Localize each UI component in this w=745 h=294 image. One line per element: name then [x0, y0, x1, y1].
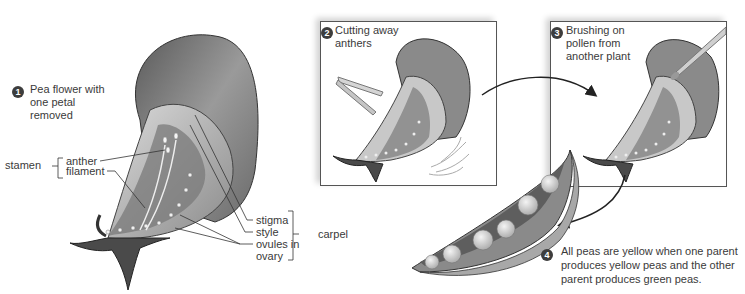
step4-caption-line3: parent produces green peas.: [561, 272, 738, 286]
step4-badge: 4: [541, 249, 553, 261]
step4-caption-line1: All peas are yellow when one parent: [561, 244, 738, 258]
step4-caption-line2: produces yellow peas and the other: [561, 258, 738, 272]
step4-caption: All peas are yellow when one parent prod…: [561, 244, 738, 286]
